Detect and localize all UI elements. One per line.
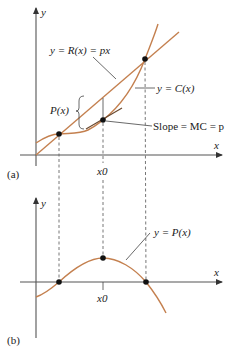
break-even-dot-2-b (143, 279, 149, 285)
panel-b: y x y = P(x) x0 (b) (7, 197, 222, 347)
break-even-dot-1-a (56, 131, 62, 137)
revenue-label: y = R(x) = px (49, 44, 110, 57)
x0-label-b: x0 (96, 292, 108, 304)
profit-leader (126, 233, 150, 260)
x-axis-label-b: x (213, 266, 219, 278)
profit-curve (36, 258, 166, 313)
y-axis-label-b: y (40, 197, 46, 209)
profit-bracket-icon (76, 96, 84, 129)
dash-line-2 (145, 62, 146, 282)
revenue-leader (93, 57, 116, 79)
x-axis-label-a: x (213, 139, 219, 151)
y-axis-label-a: y (40, 6, 46, 18)
panel-tag-a: (a) (7, 168, 20, 181)
break-even-dot-1-b (56, 279, 62, 285)
break-even-dot-2-a (142, 56, 148, 62)
profit-bracket-label: P(x) (49, 104, 69, 117)
panel-tag-b: (b) (7, 334, 20, 347)
x0-dot-b (100, 255, 106, 261)
x0-dot-a (100, 117, 106, 123)
profit-label: y = P(x) (153, 226, 191, 239)
cost-label: y = C(x) (156, 82, 195, 95)
panel-a: y x P(x) y = R(x) = px y = C(x) Slope = … (7, 6, 225, 181)
x0-label-a: x0 (96, 165, 108, 177)
slope-label: Slope = MC = p (153, 120, 225, 132)
cost-curve (36, 24, 158, 143)
profit-diagram: y x P(x) y = R(x) = px y = C(x) Slope = … (0, 0, 236, 353)
